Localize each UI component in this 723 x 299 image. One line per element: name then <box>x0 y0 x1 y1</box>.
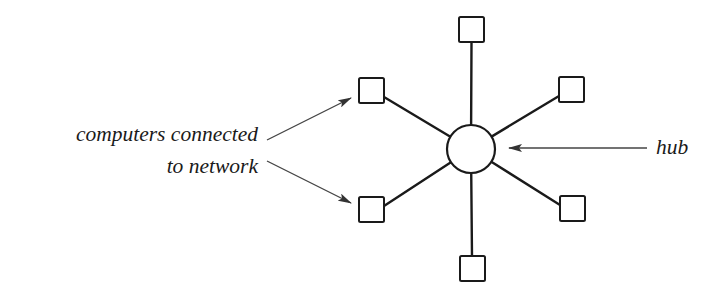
diagram-svg: computers connected to network hub <box>0 0 723 299</box>
computer-node-lower-right <box>560 196 585 221</box>
spoke-lower-left <box>384 162 451 206</box>
computer-node-bottom <box>460 256 485 281</box>
arrow-to-lower-left-computer <box>267 161 351 203</box>
spoke-upper-right <box>492 96 559 137</box>
hub-circle <box>447 125 495 173</box>
spoke-bottom <box>471 173 472 256</box>
label-hub: hub <box>656 135 689 159</box>
computer-node-lower-left <box>359 197 384 222</box>
star-network-diagram: computers connected to network hub <box>0 0 723 299</box>
label-computers-line2: to network <box>167 154 259 178</box>
label-computers-line1: computers connected <box>76 122 258 146</box>
arrow-to-upper-left-computer <box>267 98 351 140</box>
computer-node-top <box>459 17 484 42</box>
computer-node-upper-left <box>359 78 384 103</box>
spoke-upper-left <box>384 97 450 137</box>
spoke-lower-right <box>491 162 560 205</box>
computer-node-upper-right <box>559 77 584 102</box>
